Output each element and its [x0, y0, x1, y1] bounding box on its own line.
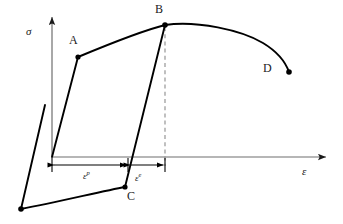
dimension-label-elastic-strain-sup: e	[139, 171, 142, 178]
curve-residual	[21, 187, 125, 209]
dimension-label-plastic-strain-sup: p	[87, 169, 90, 176]
point-marker-e	[18, 206, 24, 212]
curve-loading-elastic	[52, 57, 78, 157]
point-label-c: C	[127, 190, 135, 202]
point-label-b: B	[155, 3, 163, 15]
y-axis-label: σ	[26, 26, 31, 37]
curve-free-segment	[21, 105, 45, 209]
point-marker-group	[18, 22, 292, 212]
curve-elastic-unloading	[125, 25, 165, 187]
point-label-a: A	[69, 34, 78, 46]
axis-group	[52, 17, 326, 157]
point-marker-b	[162, 22, 168, 28]
dimension-line-group	[52, 158, 165, 172]
curve-group	[21, 24, 289, 209]
point-marker-a	[75, 54, 80, 59]
point-marker-d	[286, 69, 292, 75]
stress-strain-figure: σ ε A B C D εp εe	[0, 0, 343, 224]
curve-plastic-hardening	[78, 25, 165, 57]
dimension-label-elastic-strain: εe	[135, 172, 141, 183]
point-label-d: D	[263, 62, 272, 74]
x-axis-label: ε	[302, 166, 306, 177]
stress-strain-plot	[0, 0, 343, 224]
dimension-label-plastic-strain: εp	[83, 170, 90, 181]
